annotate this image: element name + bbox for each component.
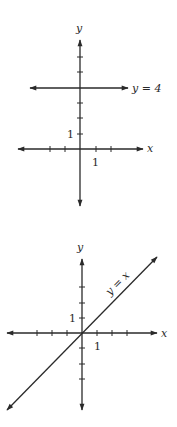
x-unit-label: 1: [94, 340, 101, 353]
x-unit-label: 1: [92, 156, 99, 169]
x-axis-label: x: [147, 142, 154, 155]
diagram-canvas: y x 1 1 y = 4 y x: [0, 0, 177, 427]
y-axis-label: y: [76, 241, 84, 254]
graph-horizontal-line: y x 1 1 y = 4: [18, 22, 161, 206]
y-unit-label: 1: [69, 312, 76, 325]
x-axis-label: x: [161, 327, 168, 340]
graph-diagonal-line: y x 1 1 y = x: [7, 241, 168, 410]
y-unit-label: 1: [67, 128, 74, 141]
line-label: y = x: [102, 268, 133, 299]
y-axis-label: y: [75, 22, 83, 35]
line-label: y = 4: [131, 82, 161, 95]
